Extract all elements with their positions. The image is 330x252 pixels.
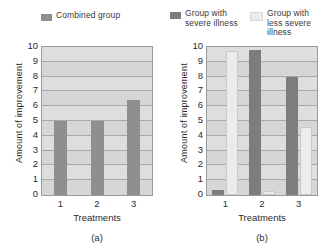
x-axis-ticks: 123 <box>206 198 318 212</box>
gridline <box>42 76 152 77</box>
y-axis-ticks: 109876543210 <box>187 46 203 196</box>
legend-panel-a: Combined group <box>0 6 165 46</box>
y-tick-label: 10 <box>22 41 38 51</box>
y-tick-label: 3 <box>22 145 38 155</box>
y-tick-label: 2 <box>187 159 203 169</box>
gridline <box>207 76 317 77</box>
grid-band <box>42 47 152 62</box>
bar <box>286 77 298 195</box>
y-tick-label: 0 <box>22 189 38 199</box>
panel-caption: (a) <box>41 232 153 243</box>
y-tick-label: 3 <box>187 145 203 155</box>
gridline <box>42 90 152 91</box>
gridline <box>42 46 152 47</box>
legend-swatch-icon <box>41 14 52 21</box>
y-tick-label: 4 <box>22 130 38 140</box>
y-tick-label: 1 <box>22 174 38 184</box>
legend-panel-b: Group with severe illness Group with les… <box>165 6 330 46</box>
gridline <box>207 105 317 106</box>
x-tick-label: 1 <box>58 198 63 209</box>
y-tick-label: 5 <box>187 115 203 125</box>
y-tick-label: 8 <box>22 71 38 81</box>
y-tick-label: 6 <box>187 100 203 110</box>
panel-caption: (b) <box>206 232 318 243</box>
legend-item-label: Combined group <box>56 11 120 21</box>
y-tick-label: 5 <box>22 115 38 125</box>
x-tick-label: 3 <box>131 198 136 209</box>
chart-panel-a: Combined group Amount of improvement 109… <box>0 0 165 252</box>
plot-area-wrapper-a: Amount of improvement 109876543210 123 T… <box>0 46 165 206</box>
y-tick-label: 1 <box>187 174 203 184</box>
x-tick-label: 3 <box>296 198 301 209</box>
legend-swatch-icon <box>170 12 181 19</box>
y-tick-label: 0 <box>187 189 203 199</box>
y-tick-label: 7 <box>187 85 203 95</box>
legend-item-label: Group with severe illness <box>185 9 238 28</box>
plot-area <box>206 46 318 196</box>
grid-band <box>207 106 317 121</box>
bar <box>54 121 67 195</box>
y-tick-label: 2 <box>22 159 38 169</box>
y-tick-label: 10 <box>187 41 203 51</box>
plot-area-wrapper-b: Amount of improvement 109876543210 123 T… <box>165 46 330 206</box>
bar <box>212 190 224 195</box>
figure-two-bar-charts: Combined group Amount of improvement 109… <box>0 0 330 252</box>
y-tick-label: 4 <box>187 130 203 140</box>
gridline <box>42 61 152 62</box>
grid-band <box>207 77 317 92</box>
y-tick-label: 6 <box>22 100 38 110</box>
grid-band <box>207 47 317 62</box>
y-tick-label: 8 <box>187 71 203 81</box>
x-tick-label: 2 <box>94 198 99 209</box>
bar <box>300 127 312 195</box>
y-tick-label: 9 <box>22 56 38 66</box>
x-axis-label: Treatments <box>41 212 153 223</box>
y-tick-label: 7 <box>22 85 38 95</box>
plot-area <box>41 46 153 196</box>
x-tick-label: 2 <box>259 198 264 209</box>
x-tick-label: 1 <box>223 198 228 209</box>
bar <box>249 50 261 195</box>
gridline <box>207 61 317 62</box>
bar <box>91 121 104 195</box>
bar <box>226 51 238 195</box>
y-tick-label: 9 <box>187 56 203 66</box>
grid-band <box>42 77 152 92</box>
legend-item-combined-group: Combined group <box>41 11 120 21</box>
x-axis-ticks: 123 <box>41 198 153 212</box>
gridline <box>207 120 317 121</box>
legend-swatch-icon <box>250 12 263 21</box>
legend-item-less-severe-illness: Group with less severe illness <box>250 9 311 38</box>
legend-item-label: Group with less severe illness <box>267 9 311 38</box>
chart-panel-b: Group with severe illness Group with les… <box>165 0 330 252</box>
legend-item-severe-illness: Group with severe illness <box>170 9 238 28</box>
bar <box>127 100 140 195</box>
gridline <box>207 90 317 91</box>
gridline <box>207 46 317 47</box>
y-axis-ticks: 109876543210 <box>22 46 38 196</box>
bar <box>263 191 275 195</box>
x-axis-label: Treatments <box>206 212 318 223</box>
